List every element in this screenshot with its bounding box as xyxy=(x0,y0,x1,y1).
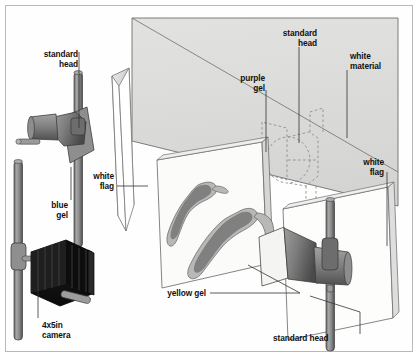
label-purple-gel: purple gel xyxy=(219,73,265,93)
label-white-flag-left: white flag xyxy=(72,171,114,191)
label-yellow-gel: yellow gel xyxy=(152,288,206,298)
label-standard-head-top: standard head xyxy=(259,28,317,48)
label-white-material: white material xyxy=(350,51,410,71)
label-white-flag-right: white flag xyxy=(342,157,384,177)
label-standard-head-left: standard head xyxy=(16,49,78,69)
lighting-setup-diagram: standard head white flag blue gel 4x5in … xyxy=(0,0,420,359)
label-camera: 4x5in camera xyxy=(42,320,96,340)
label-standard-head-bottom: standard head xyxy=(273,333,355,343)
white-flag-left-panel xyxy=(112,68,134,231)
standard-head-left-fixture xyxy=(16,71,94,247)
label-blue-gel: blue gel xyxy=(28,200,68,220)
